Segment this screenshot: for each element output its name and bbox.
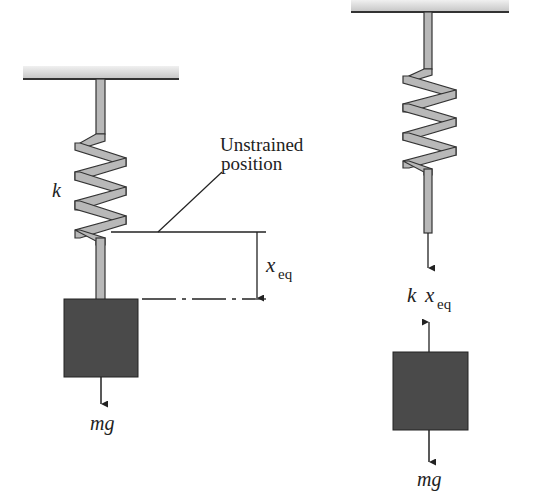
right-mass-block xyxy=(393,352,468,430)
left-spring xyxy=(75,79,126,300)
spring-force-var: x xyxy=(424,283,435,307)
displacement-var: x xyxy=(265,253,276,277)
right-ceiling xyxy=(351,0,509,12)
right-figure: k x eq mg xyxy=(351,0,509,491)
displacement-subscript: eq xyxy=(278,266,293,282)
annotation-position: position xyxy=(221,153,283,174)
left-ceiling xyxy=(23,66,179,79)
spring-force-subscript: eq xyxy=(437,296,452,312)
annotation-leader-line xyxy=(158,172,222,232)
left-figure: k mg Unstrained position x eq xyxy=(23,66,304,435)
spring-mass-diagram: k mg Unstrained position x eq xyxy=(0,0,538,498)
left-mass-block xyxy=(64,299,138,377)
right-weight-label: mg xyxy=(417,468,441,491)
spring-constant-label: k xyxy=(52,179,62,201)
spring-force-k: k xyxy=(407,283,417,307)
left-weight-label: mg xyxy=(90,412,114,435)
right-spring xyxy=(403,12,456,233)
annotation-unstrained: Unstrained xyxy=(220,134,304,155)
